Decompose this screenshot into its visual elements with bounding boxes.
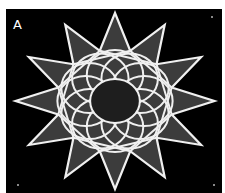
star-rosette-figure <box>0 0 225 193</box>
